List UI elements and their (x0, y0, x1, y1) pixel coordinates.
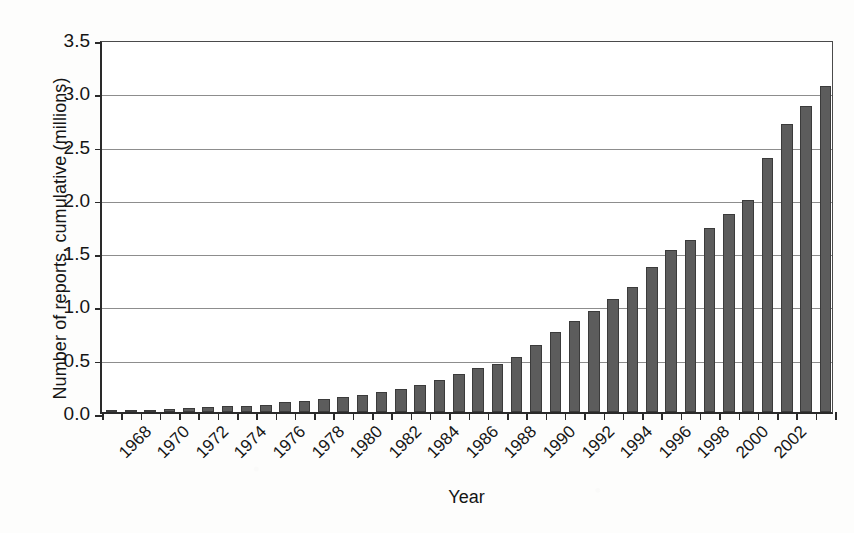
bar (646, 267, 658, 412)
y-tick-label: 3.5 (42, 30, 90, 52)
x-tick-label: 2002 (771, 422, 812, 463)
bar (318, 399, 330, 412)
x-tick-label: 1974 (230, 422, 271, 463)
bar (183, 408, 195, 412)
bar (106, 410, 118, 412)
x-tick-label: 1988 (501, 422, 542, 463)
x-tick-label: 1976 (269, 422, 310, 463)
x-axis-title: Year (100, 487, 833, 508)
bar (241, 406, 253, 412)
y-tick-mark (95, 308, 102, 310)
bar (125, 410, 137, 412)
gridline (102, 202, 832, 203)
y-tick-mark (95, 362, 102, 364)
y-tick-mark (95, 202, 102, 204)
bar (588, 311, 600, 412)
bar (337, 397, 349, 412)
x-tick-label: 1980 (346, 422, 387, 463)
bar (260, 405, 272, 412)
gridline (102, 95, 832, 96)
bar (665, 250, 677, 412)
x-tick-label: 2000 (732, 422, 773, 463)
x-tick-label: 1984 (423, 422, 464, 463)
bar (569, 321, 581, 412)
bar (492, 364, 504, 412)
x-tick-label: 1970 (153, 422, 194, 463)
bar (222, 406, 234, 412)
bar (434, 380, 446, 412)
y-tick-mark (95, 149, 102, 151)
bar (511, 357, 523, 412)
bar (723, 214, 735, 412)
bar (685, 240, 697, 412)
y-tick-label: 3.0 (42, 83, 90, 105)
bar (781, 124, 793, 412)
x-axis-tick-labels: 1968197019721974197619781980198219841986… (100, 414, 833, 494)
y-tick-mark (95, 95, 102, 97)
x-tick-label: 1994 (616, 422, 657, 463)
x-tick-label: 1986 (462, 422, 503, 463)
bar (299, 401, 311, 412)
bar (376, 392, 388, 412)
y-axis-tick-labels: 0.00.51.01.52.02.53.03.5 (38, 0, 90, 533)
bar (627, 287, 639, 412)
y-tick-label: 0.0 (42, 403, 90, 425)
y-tick-label: 1.0 (42, 296, 90, 318)
bar (762, 158, 774, 412)
bar (820, 86, 832, 412)
x-tick-mark (835, 412, 837, 420)
x-tick-label: 1968 (115, 422, 156, 463)
bar (414, 385, 426, 412)
y-tick-label: 2.0 (42, 190, 90, 212)
gridline (102, 149, 832, 150)
bar (530, 345, 542, 412)
y-tick-label: 0.5 (42, 350, 90, 372)
bar (607, 299, 619, 412)
bar (472, 368, 484, 412)
bar (704, 228, 716, 412)
y-tick-label: 1.5 (42, 243, 90, 265)
y-tick-label: 2.5 (42, 137, 90, 159)
bar (395, 389, 407, 412)
x-tick-label: 1990 (539, 422, 580, 463)
chart-figure: Number of reports, cumulative (millions)… (0, 0, 854, 533)
x-tick-label: 1998 (693, 422, 734, 463)
plot-area (100, 41, 833, 414)
bar (800, 106, 812, 412)
y-tick-mark (95, 255, 102, 257)
x-tick-label: 1992 (578, 422, 619, 463)
x-tick-label: 1982 (385, 422, 426, 463)
y-tick-mark (95, 42, 102, 44)
x-tick-label: 1996 (655, 422, 696, 463)
bar (202, 407, 214, 412)
bar (453, 374, 465, 412)
bar (742, 200, 754, 412)
x-tick-label: 1978 (308, 422, 349, 463)
x-tick-label: 1972 (192, 422, 233, 463)
bar (550, 332, 562, 412)
bar (279, 402, 291, 412)
bar (144, 410, 156, 412)
bar (357, 395, 369, 412)
bar (164, 409, 176, 412)
